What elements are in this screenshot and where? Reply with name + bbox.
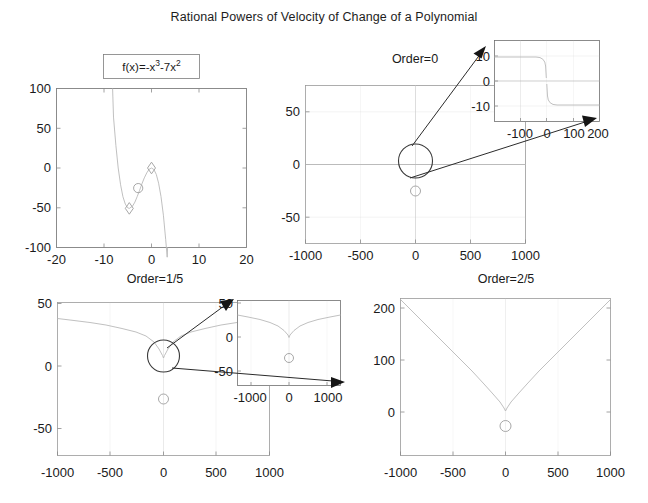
panel-order-1-5-xtick-500: 500 bbox=[205, 465, 227, 480]
panel-order-0-xtick-1000: 1000 bbox=[511, 248, 540, 263]
panel-order-1-5-ytick-0: 0 bbox=[45, 359, 52, 374]
panel-function-ytick-50: 50 bbox=[37, 121, 51, 136]
panel-function-xtick-neg10: -10 bbox=[95, 252, 114, 267]
panel-function-ytick-100: 100 bbox=[29, 81, 51, 96]
panel-order-2-5-xtick-500: 500 bbox=[547, 465, 569, 480]
panel-order-0-ytick-50: 50 bbox=[286, 104, 300, 119]
panel-order-2-5-ytick-100: 100 bbox=[373, 353, 395, 368]
panel-order-1-5-xtick-neg1000: -1000 bbox=[41, 465, 74, 480]
panel-function-ytick-neg50: -50 bbox=[32, 200, 51, 215]
panel-order-1-5-title: Order=1/5 bbox=[127, 272, 184, 286]
inset-order-1-5-xtick-neg1000: -1000 bbox=[233, 390, 266, 405]
panel-function-xtick-neg20: -20 bbox=[47, 252, 66, 267]
panel-function-marker-inflection bbox=[134, 184, 143, 193]
panel-function-xtick-20: 20 bbox=[239, 252, 253, 267]
panel-order-2-5-ytick-200: 200 bbox=[373, 301, 395, 316]
panel-order-1-5-xtick-neg500: -500 bbox=[97, 465, 123, 480]
inset-order-1-5-xtick-1000: 1000 bbox=[314, 390, 343, 405]
panel-order-0-xtick-neg1000: -1000 bbox=[289, 248, 322, 263]
panel-order-2-5-title: Order=2/5 bbox=[478, 272, 535, 286]
panel-order-2-5-ytick-0: 0 bbox=[388, 405, 395, 420]
panel-function-xtick-0: 0 bbox=[148, 252, 155, 267]
zoom-arrow-1-5-upper-line bbox=[167, 306, 224, 348]
panel-order-0-ytick-0: 0 bbox=[293, 157, 300, 172]
panel-order-0-title: Order=0 bbox=[392, 52, 438, 66]
inset-order-1-5-ytick-0: 0 bbox=[226, 330, 233, 345]
figure-title: Rational Powers of Velocity of Change of… bbox=[0, 10, 648, 24]
panel-order-0-xtick-neg500: -500 bbox=[347, 248, 373, 263]
panel-order-1-5-xtick-1000: 1000 bbox=[255, 465, 284, 480]
inset-order-1-5-xtick-0: 0 bbox=[285, 390, 292, 405]
panel-function-xtick-10: 10 bbox=[192, 252, 206, 267]
panel-function: 100 50 0 -50 -100 -20 -10 0 10 20 f(x)=-… bbox=[25, 55, 254, 268]
panel-order-1-5-ytick-neg50: -50 bbox=[33, 421, 52, 436]
panel-order-0-ytick-neg50: -50 bbox=[281, 210, 300, 225]
inset-order-1-5: 50 0 -50 -1000 0 1000 bbox=[214, 296, 342, 405]
panel-order-2-5-xtick-neg1000: -1000 bbox=[384, 465, 417, 480]
panel-function-legend-label: f(x)=-x3-7x2 bbox=[122, 58, 181, 73]
inset-order-0-xtick-200: 200 bbox=[587, 126, 609, 141]
panel-order-0-xtick-0: 0 bbox=[412, 248, 419, 263]
inset-order-0-ytick-neg10: -10 bbox=[471, 99, 490, 114]
panel-order-2-5-xtick-0: 0 bbox=[502, 465, 509, 480]
panel-order-2-5: Order=2/5 200 100 bbox=[373, 272, 625, 480]
panel-order-2-5-xtick-1000: 1000 bbox=[596, 465, 625, 480]
panel-order-1-5-ytick-50: 50 bbox=[38, 296, 52, 311]
plots-svg: 100 50 0 -50 -100 -20 -10 0 10 20 f(x)=-… bbox=[0, 0, 648, 503]
panel-order-1-5-xtick-0: 0 bbox=[160, 465, 167, 480]
panel-function-ytick-0: 0 bbox=[44, 160, 51, 175]
inset-order-0-xtick-neg100: -100 bbox=[507, 126, 533, 141]
panel-order-2-5-xtick-neg500: -500 bbox=[440, 465, 466, 480]
panel-function-curve bbox=[113, 89, 168, 258]
panel-order-2-5-grid bbox=[453, 299, 558, 456]
zoom-arrow-lower-line bbox=[410, 122, 585, 178]
figure-canvas: Rational Powers of Velocity of Change of… bbox=[0, 0, 648, 503]
inset-order-0-ytick-0: 0 bbox=[483, 74, 490, 89]
panel-order-0-xtick-500: 500 bbox=[460, 248, 482, 263]
inset-order-0: 10 0 -10 -100 0 100 200 bbox=[471, 40, 609, 141]
panel-order-1-5-grid bbox=[110, 303, 216, 456]
